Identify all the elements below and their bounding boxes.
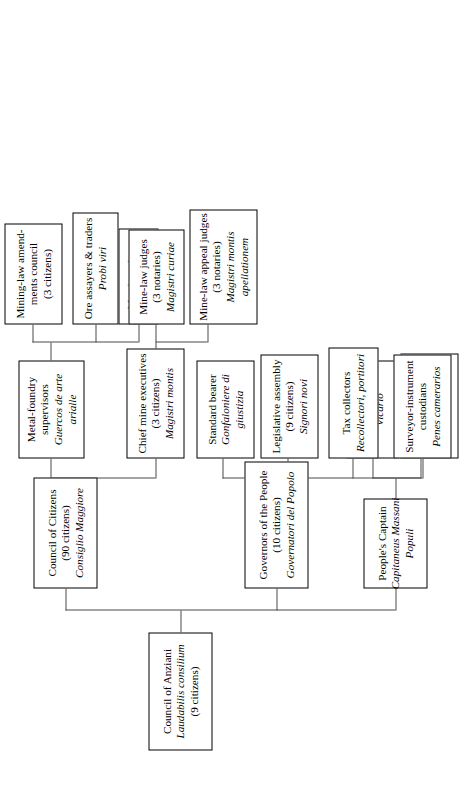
edge-captain-out <box>395 478 396 498</box>
node-line-2: Recollectori, portitori <box>353 353 367 451</box>
node-mine-law-judges[interactable]: Mine-law judges (3 notaries) Magistri cu… <box>128 229 184 324</box>
node-line-1: Mine-law judges <box>136 239 150 315</box>
node-council-of-anziani[interactable]: Council of Anziani Laudabilis consilium … <box>148 632 212 750</box>
edge-root-spine <box>65 609 395 610</box>
node-line-1: Standard bearer <box>205 374 219 445</box>
edge-chiefmine-spine <box>155 341 207 342</box>
node-line-1: Surveyor-instrument <box>402 360 416 452</box>
node-line-2: (3 notaries) <box>149 251 163 302</box>
node-line-1: Mine-law appeal judges <box>196 213 210 321</box>
node-line-1: Council of Citizens <box>45 489 59 576</box>
node-line-2: custodians <box>415 382 429 429</box>
edge-to-mining-law-amendments <box>32 324 33 342</box>
node-line-1: Tax collectors <box>339 371 353 434</box>
edge-to-standard-bearer <box>222 458 223 478</box>
edge-to-chief-mine <box>155 458 156 478</box>
node-chief-mine-executives[interactable]: Chief mine executives (3 citizens) Magis… <box>126 348 184 458</box>
node-line-2: (90 citizens) <box>58 505 72 561</box>
edge-to-peoples-captain <box>395 588 396 610</box>
node-line-2: Probi viri <box>95 246 109 289</box>
node-line-2: (3 notaries) <box>209 241 223 292</box>
node-line-3: Penes camerarios <box>429 366 443 446</box>
node-line-1: Mining-law amend- <box>13 229 27 318</box>
node-line-1: Governors of the People <box>256 470 270 579</box>
node-line-2: (3 citizens) <box>148 378 162 428</box>
edge-to-mine-law-appeal-judges <box>207 324 208 342</box>
edge-to-mine-law-judges <box>155 324 156 342</box>
node-line-3: Magistri montis <box>223 231 237 302</box>
node-line-4: apellationem <box>237 237 251 295</box>
node-council-of-citizens[interactable]: Council of Citizens (90 citizens) Consig… <box>33 477 97 588</box>
node-legislative-assembly[interactable]: Legislative assembly (9 citizens) Signor… <box>260 354 318 458</box>
node-line-2: Gonfaloniere di <box>218 374 232 445</box>
edge-to-surveyor-custodians <box>422 458 423 478</box>
node-line-1: Metal-foundry <box>24 376 38 441</box>
edge-to-tax-collectors <box>352 458 353 478</box>
node-line-3: Magistri montis <box>162 367 176 438</box>
node-line-1: Council of Anziani <box>160 648 174 733</box>
node-surveyor-instrument-custodians[interactable]: Surveyor-instrument custodians Penes cam… <box>393 354 451 458</box>
node-tax-collectors[interactable]: Tax collectors Recollectori, portitori <box>328 347 378 458</box>
edge-foundry-spine <box>32 341 138 342</box>
node-line-2: Capitaneus Massani <box>388 497 402 589</box>
node-line-3: Magistri curiae <box>163 242 177 312</box>
edge-to-council-citizens <box>65 588 66 610</box>
node-line-2: (9 citizens) <box>282 381 296 431</box>
edge-to-assistant-judge <box>372 458 373 478</box>
node-ore-assayers-and-traders[interactable]: Ore assayers & traders Probi viri <box>72 212 118 324</box>
node-line-3: (9 citizens) <box>187 666 201 716</box>
node-standard-bearer[interactable]: Standard bearer Gonfaloniere di giustizi… <box>196 360 254 458</box>
node-line-2: Laudabilis consilium <box>173 644 187 738</box>
edge-to-appeals-judge <box>420 458 421 478</box>
edge-to-metal-foundry <box>50 458 51 478</box>
node-mine-law-appeal-judges[interactable]: Mine-law appeal judges (3 notaries) Magi… <box>189 209 257 324</box>
node-line-1: People's Captain <box>375 506 389 580</box>
node-governors-of-the-people[interactable]: Governors of the People (10 citizens) Go… <box>244 461 308 588</box>
node-line-1: Chief mine executives <box>135 353 149 453</box>
node-line-2: ments council <box>26 242 40 304</box>
node-line-3: Populi <box>402 528 416 558</box>
node-mining-law-amendments-council[interactable]: Mining-law amend- ments council (3 citiz… <box>4 223 62 324</box>
node-line-3: Signori novi <box>296 379 310 434</box>
edge-to-ore-assayers <box>95 324 96 342</box>
node-metal-foundry-supervisors[interactable]: Metal-foundry supervisors Guercos de art… <box>18 360 84 458</box>
node-line-3: (3 citizens) <box>40 249 54 299</box>
node-line-2: supervisors <box>37 384 51 435</box>
node-line-3: giustizia <box>232 390 246 428</box>
edge-to-metal-smelters <box>138 324 139 342</box>
edge-root-out <box>180 610 181 632</box>
node-line-3: Governatori del Popolo <box>283 471 297 578</box>
node-peoples-captain[interactable]: People's Captain Capitaneus Massani Popu… <box>363 498 427 588</box>
node-line-1: Legislative assembly <box>269 359 283 453</box>
node-line-1: Ore assayers & traders <box>81 217 95 319</box>
edge-to-governors <box>276 588 277 610</box>
node-line-3: Guercos de arte <box>51 373 65 445</box>
node-line-2: (10 citizens) <box>269 497 283 553</box>
node-line-3: Consiglio Maggiore <box>72 487 86 577</box>
org-chart: Council of Anziani Laudabilis consilium … <box>0 0 473 785</box>
node-line-4: arialle <box>65 394 79 424</box>
edge-foundry-out <box>50 342 51 360</box>
